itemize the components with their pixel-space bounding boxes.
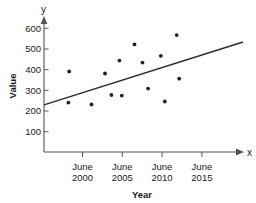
data-point [118, 59, 122, 63]
x-tick-label-2000-month: June [72, 161, 93, 172]
data-point [90, 103, 94, 107]
x-axis-letter: x [247, 147, 252, 158]
data-point [133, 43, 137, 47]
data-point [159, 54, 163, 58]
y-tick-label-200: 200 [25, 105, 41, 116]
data-point [67, 70, 71, 74]
y-tick-label-400: 400 [25, 64, 41, 75]
data-point [177, 77, 181, 81]
data-point [146, 87, 150, 91]
y-tick-label-100: 100 [25, 126, 41, 137]
trend-line [44, 42, 243, 105]
data-points-group [67, 33, 182, 106]
data-point [110, 93, 114, 97]
y-axis-letter: y [41, 4, 46, 15]
data-point [120, 94, 124, 98]
y-axis-title: Value [7, 74, 18, 99]
x-tick-label-2010-month: June [152, 161, 173, 172]
x-tick-label-2010-year: 2010 [152, 172, 173, 183]
data-point [103, 72, 107, 76]
y-tick-label-600: 600 [25, 23, 41, 34]
x-axis-arrow-icon [236, 149, 244, 156]
data-point [67, 101, 71, 105]
scatter-plot-figure: y x 600 500 400 300 200 100 June 2000 Ju… [0, 0, 256, 203]
x-tick-label-2000-year: 2000 [72, 172, 93, 183]
x-tick-label-2005-month: June [112, 161, 133, 172]
y-tick-marks [44, 28, 49, 131]
y-tick-label-500: 500 [25, 43, 41, 54]
x-tick-label-2015-month: June [192, 161, 213, 172]
y-axis-arrow-icon [41, 16, 48, 24]
y-tick-label-300: 300 [25, 85, 41, 96]
x-tick-marks [83, 152, 202, 157]
x-tick-label-2015-year: 2015 [191, 172, 212, 183]
data-point [175, 33, 179, 37]
data-point [163, 100, 167, 104]
x-tick-label-2005-year: 2005 [112, 172, 133, 183]
data-point [141, 61, 145, 65]
plot-canvas: y x 600 500 400 300 200 100 June 2000 Ju… [0, 0, 256, 203]
x-axis-title: Year [132, 189, 152, 200]
